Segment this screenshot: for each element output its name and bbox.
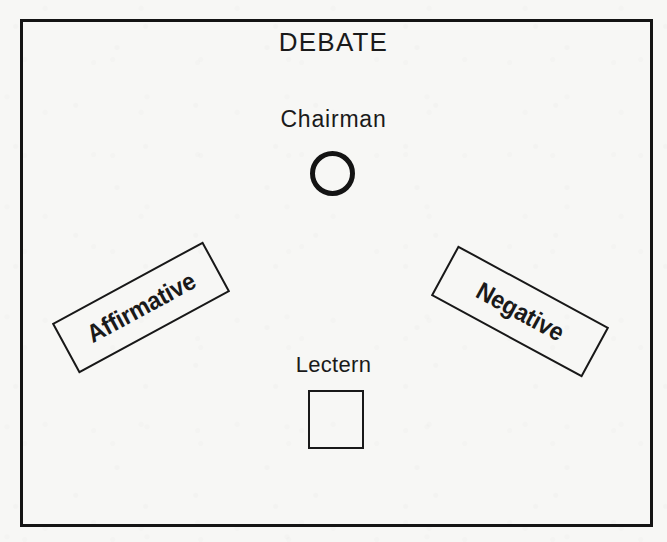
debate-room-diagram: DEBATE Chairman Affirmative Negative Lec… [0,0,667,542]
diagram-title: DEBATE [0,29,667,55]
lectern-square [308,390,364,449]
chairman-seat-circle [310,151,355,196]
chairman-label: Chairman [0,108,667,131]
room-boundary-frame [20,19,653,527]
lectern-label: Lectern [0,354,667,376]
